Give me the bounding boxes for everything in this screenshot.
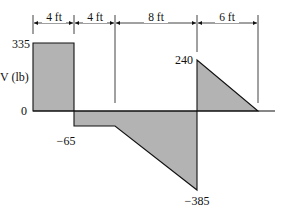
region-positive-240 — [197, 60, 258, 111]
dimension-label-1: 4 ft — [46, 11, 62, 23]
value-label-240: 240 — [175, 53, 193, 67]
value-label-neg385: −385 — [185, 194, 210, 208]
value-label-zero: 0 — [21, 104, 27, 118]
shear-regions — [33, 43, 258, 190]
dimension-label-3: 8 ft — [148, 11, 164, 23]
dimension-label-4: 6 ft — [219, 11, 235, 23]
value-label-335: 335 — [12, 37, 30, 51]
value-label-neg65: −65 — [57, 134, 76, 148]
region-negative — [74, 111, 197, 190]
region-positive-335 — [33, 43, 74, 111]
y-axis-label: V (lb) — [0, 70, 29, 84]
shear-diagram: 4 ft 4 ft 8 ft 6 ft 335 V (lb) 0 −65 240… — [0, 0, 281, 215]
dimension-label-2: 4 ft — [87, 11, 103, 23]
